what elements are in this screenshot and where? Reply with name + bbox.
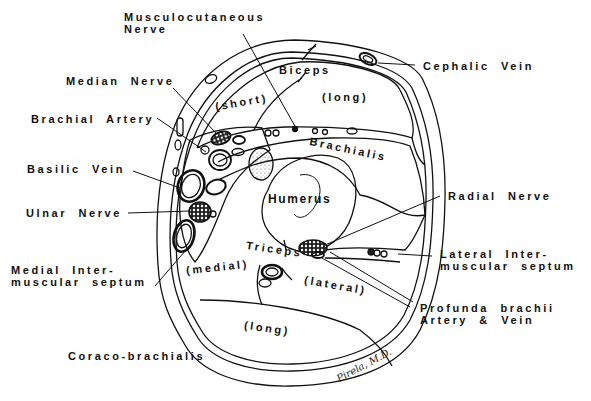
ulnar-nerve-shape [189, 202, 211, 222]
label-basilic-vein: Basilic Vein [27, 163, 125, 175]
label-biceps: Biceps [279, 64, 331, 76]
cephalic-vein-shape [358, 51, 379, 68]
label-humerus: Humerus [268, 193, 331, 205]
leader-lateral-septum [398, 254, 432, 256]
label-biceps-long: (long) [322, 91, 368, 103]
label-medial-intermuscular-septum: Medial Inter- muscular septum [11, 264, 147, 288]
label-musculocutaneous-nerve: Musculocutaneous Nerve [124, 11, 265, 35]
stippled-mass [249, 148, 273, 180]
label-profunda-brachii: Profunda brachii Artery & Vein [420, 302, 555, 326]
label-cephalic-vein: Cephalic Vein [423, 60, 534, 72]
triceps-vessel [262, 265, 282, 279]
leader-ulnar [128, 211, 190, 213]
triceps-long-head-border [200, 300, 392, 366]
label-ulnar-nerve: Ulnar Nerve [26, 207, 122, 219]
label-radial-nerve: Radial Nerve [448, 190, 552, 202]
label-lateral-intermuscular-septum: Lateral Inter- muscular septum [440, 248, 576, 272]
medial-septum-vessel [170, 218, 198, 254]
leader-brachial [157, 118, 206, 152]
label-brachial-artery: Brachial Artery [31, 113, 154, 125]
label-coracobrachialis: Coraco-brachialis [68, 350, 205, 362]
label-median-nerve: Median Nerve [66, 75, 174, 87]
leader-cephalic [378, 63, 415, 65]
lateral-septum [325, 215, 425, 250]
brachial-artery-shape [209, 150, 231, 170]
